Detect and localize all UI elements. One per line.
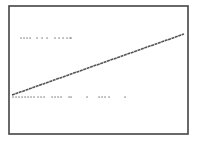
data-point (54, 37, 55, 38)
data-point (15, 96, 16, 97)
data-point (24, 96, 25, 97)
data-point (66, 37, 67, 38)
data-point (70, 37, 71, 38)
chart-plot (0, 0, 199, 143)
data-point (30, 96, 31, 97)
data-point (40, 96, 41, 97)
data-point (58, 37, 59, 38)
data-point (20, 37, 21, 38)
data-point (26, 37, 27, 38)
lower-dots (12, 96, 125, 97)
data-point (60, 96, 61, 97)
data-point (124, 96, 125, 97)
data-point (108, 96, 109, 97)
data-point (36, 37, 37, 38)
plot-frame (9, 6, 188, 134)
data-point (23, 37, 24, 38)
data-point (41, 37, 42, 38)
data-point (18, 96, 19, 97)
data-point (27, 96, 28, 97)
data-point (12, 96, 13, 97)
data-point (101, 96, 102, 97)
data-point (21, 96, 22, 97)
data-point (43, 96, 44, 97)
data-point (51, 96, 52, 97)
trend-line (12, 34, 184, 95)
upper-dots (20, 37, 71, 38)
data-point (57, 96, 58, 97)
data-point (33, 96, 34, 97)
data-point (98, 96, 99, 97)
data-point (29, 37, 30, 38)
data-point (70, 96, 71, 97)
series-layer (12, 34, 184, 98)
data-point (86, 96, 87, 97)
data-point (37, 96, 38, 97)
data-point (62, 37, 63, 38)
data-point (54, 96, 55, 97)
data-point (104, 96, 105, 97)
data-point (68, 96, 69, 97)
data-point (46, 37, 47, 38)
